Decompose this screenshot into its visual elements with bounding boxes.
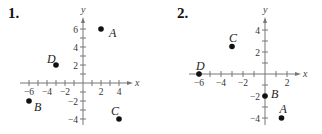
coordinate-plots: 1.xy−6−4−224642−2−4ABCD2.xy−6−4−2242−2−4… (0, 0, 322, 134)
y-tick-label: 6 (73, 25, 78, 35)
x-axis-arrow-icon (295, 72, 301, 76)
y-axis-arrow-icon (81, 17, 85, 23)
plot-1: 1.xy−6−4−224642−2−4ABCD (8, 4, 140, 125)
x-axis-arrow-icon (127, 81, 133, 85)
x-tick-label: −2 (60, 87, 70, 97)
y-tick-label: 4 (255, 26, 260, 36)
x-axis-label: x (302, 68, 308, 79)
x-tick-label: −2 (238, 78, 248, 88)
y-tick-label: −2 (68, 97, 78, 107)
y-tick-label: −4 (68, 115, 78, 125)
point-a (279, 115, 285, 121)
x-tick-label: −4 (42, 87, 52, 97)
plot-2: 2.xy−6−4−2242−2−4ABCD (177, 4, 308, 125)
y-tick-label: −2 (250, 92, 260, 102)
y-axis-label: y (80, 4, 86, 15)
x-tick-label: −6 (194, 78, 204, 88)
x-tick-label: −6 (24, 87, 34, 97)
y-axis-label: y (262, 4, 268, 15)
point-b (262, 93, 268, 99)
x-tick-label: 2 (99, 87, 104, 97)
y-axis-arrow-icon (263, 17, 267, 23)
point-label-a: A (108, 26, 117, 40)
x-tick-label: −4 (216, 78, 226, 88)
y-tick-label: 4 (73, 43, 78, 53)
point-label-d: D (195, 59, 205, 73)
point-label-c: C (229, 31, 238, 45)
problem-number: 2. (177, 5, 189, 21)
point-label-b: B (271, 87, 279, 101)
x-tick-label: 4 (117, 87, 122, 97)
point-a (98, 26, 104, 32)
point-label-c: C (111, 104, 120, 118)
point-label-b: B (34, 100, 42, 114)
point-c (229, 44, 235, 50)
y-tick-label: 2 (73, 61, 78, 71)
x-tick-label: 2 (285, 78, 290, 88)
y-tick-label: −4 (250, 114, 260, 124)
x-axis-label: x (134, 77, 140, 88)
point-label-a: A (279, 102, 288, 116)
problem-number: 1. (8, 5, 20, 21)
point-b (26, 98, 32, 104)
y-tick-label: 2 (255, 48, 260, 58)
point-label-d: D (46, 52, 56, 66)
